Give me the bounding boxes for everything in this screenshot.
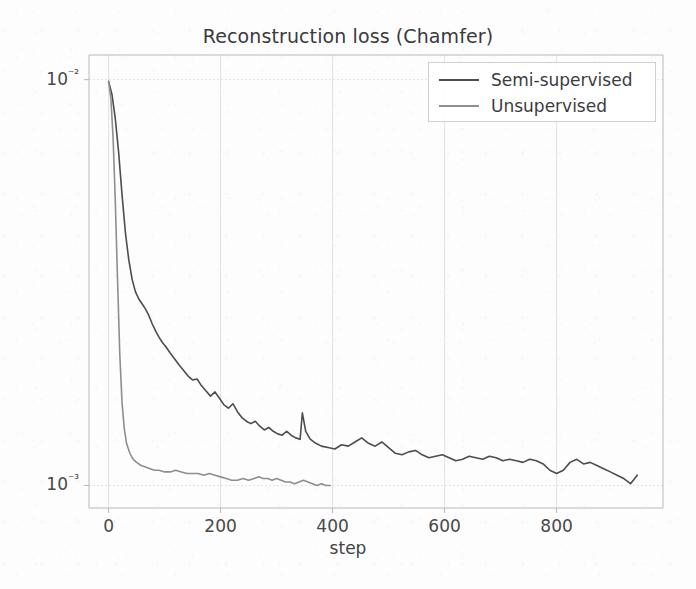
x-tick-label: 200 [181,516,261,536]
axis-ticks [84,80,557,513]
legend-item-unsupervised: Unsupervised [439,93,607,119]
gridlines [89,55,663,508]
y-tick-label: 10⁻³ [1,474,79,494]
axis-spines [89,55,663,508]
legend-swatch-unsupervised [439,105,479,107]
legend-swatch-semi-supervised [439,79,479,81]
legend-item-semi-supervised: Semi-supervised [439,67,632,93]
x-tick-label: 600 [405,516,485,536]
x-tick-label: 0 [69,516,149,536]
figure-canvas: Reconstruction loss (Chamfer) step Semi-… [0,0,696,589]
series-line-semi-supervised [109,81,638,483]
y-tick-label: 10⁻² [1,69,79,89]
legend-label-unsupervised: Unsupervised [491,96,607,116]
legend-label-semi-supervised: Semi-supervised [491,70,632,90]
legend: Semi-supervised Unsupervised [428,62,656,122]
x-tick-label: 800 [517,516,597,536]
series-line-unsupervised [109,81,331,485]
x-tick-label: 400 [293,516,373,536]
x-axis-label: step [0,538,696,558]
